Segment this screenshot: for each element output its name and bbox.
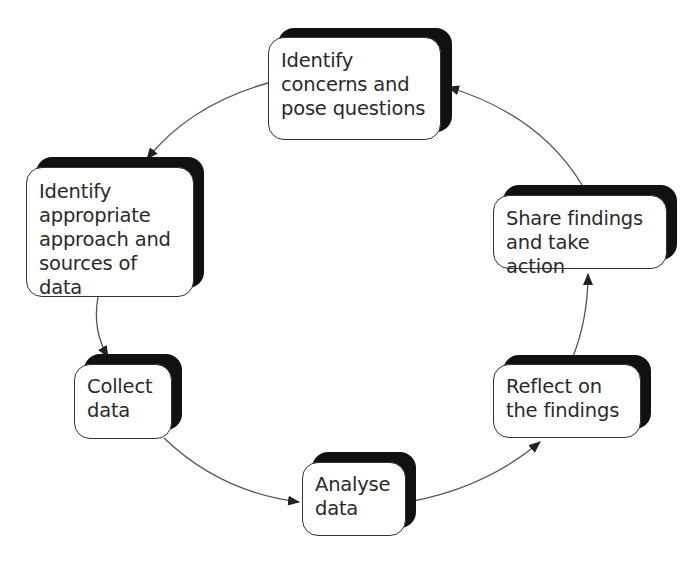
node-text-line: data bbox=[315, 497, 393, 521]
arrow-reflect-to-share bbox=[572, 274, 588, 359]
node-face: Identify appropriate approach and source… bbox=[26, 167, 194, 297]
node-text-line: the findings bbox=[506, 399, 628, 423]
node-text-line: Identify bbox=[281, 49, 428, 73]
node-text-line: approach and bbox=[39, 228, 181, 252]
arrow-concerns-to-approach bbox=[147, 83, 268, 159]
node-face: Analyse data bbox=[302, 462, 406, 536]
node-face: Reflect on the findings bbox=[493, 364, 641, 438]
node-text-line: Share findings bbox=[506, 207, 654, 231]
node-face: Collect data bbox=[74, 364, 172, 439]
arrow-analyse-to-reflect bbox=[413, 442, 540, 501]
node-collect-data: Collect data bbox=[74, 354, 182, 439]
node-face: Share findings and take action bbox=[493, 195, 667, 269]
node-share-findings: Share findings and take action bbox=[493, 185, 677, 269]
arrow-share-to-concerns bbox=[448, 87, 582, 185]
node-text-line: Analyse bbox=[315, 473, 393, 497]
node-text-line: data bbox=[87, 399, 159, 423]
node-analyse-data: Analyse data bbox=[302, 452, 416, 536]
node-text-line: pose questions bbox=[281, 97, 428, 121]
node-text-line: and take action bbox=[506, 231, 654, 279]
node-text-line: Reflect on bbox=[506, 375, 628, 399]
node-face: Identify concerns and pose questions bbox=[268, 37, 441, 140]
node-text-line: appropriate bbox=[39, 204, 181, 228]
node-text-line: concerns and bbox=[281, 73, 428, 97]
node-text-line: Collect bbox=[87, 375, 159, 399]
cycle-diagram: Identify concerns and pose questions Ide… bbox=[0, 0, 690, 561]
node-identify-concerns: Identify concerns and pose questions bbox=[268, 28, 452, 140]
arrow-collect-to-analyse bbox=[164, 438, 299, 502]
node-reflect-findings: Reflect on the findings bbox=[493, 355, 651, 438]
node-text-line: Identify bbox=[39, 180, 181, 204]
arrow-approach-to-collect bbox=[96, 297, 108, 357]
node-text-line: sources of data bbox=[39, 252, 181, 300]
node-identify-approach: Identify appropriate approach and source… bbox=[26, 157, 204, 297]
